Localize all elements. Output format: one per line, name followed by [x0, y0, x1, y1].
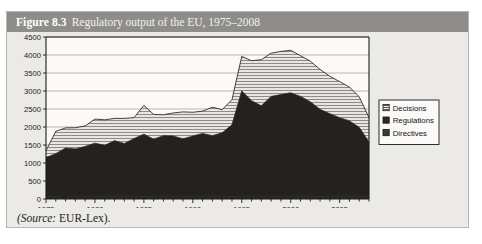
legend-label: Regulations — [393, 116, 434, 125]
x-tick-label: 2005 — [331, 205, 348, 208]
chart-legend: DecisionsRegulationsDirectives — [379, 100, 439, 145]
y-tick-label: 3000 — [24, 87, 41, 96]
figure-number: Figure 8.3 — [16, 16, 67, 28]
x-tick-label: 1975 — [38, 205, 55, 208]
figure-caption: Regulatory output of the EU, 1975–2008 — [72, 16, 260, 28]
y-tick-label: 1000 — [24, 159, 41, 168]
y-tick-label: 2500 — [24, 105, 41, 114]
y-tick-label: 4000 — [24, 51, 41, 60]
source-label: (Source: — [17, 212, 56, 224]
figure-container: Figure 8.3 Regulatory output of the EU, … — [6, 11, 469, 228]
regulatory-output-stacked-area-chart: 050010001500200025003000350040004500 197… — [7, 33, 468, 208]
y-tick-label: 4500 — [24, 33, 41, 42]
figure-title-bar: Figure 8.3 Regulatory output of the EU, … — [7, 12, 468, 32]
legend-swatch — [383, 117, 389, 123]
x-tick-label: 1990 — [184, 205, 201, 208]
x-tick-label: 1980 — [86, 205, 103, 208]
y-tick-label: 3500 — [24, 69, 41, 78]
legend-swatch — [383, 105, 389, 111]
y-tick-label: 2000 — [24, 123, 41, 132]
y-tick-label: 0 — [37, 195, 41, 204]
source-note: (Source: EUR-Lex). — [17, 212, 110, 224]
legend-swatch — [383, 130, 389, 136]
y-tick-label: 1500 — [24, 141, 41, 150]
x-tick-label: 2000 — [282, 205, 299, 208]
x-tick-label: 1985 — [135, 205, 152, 208]
x-axis-tick-labels: 1975198019851990199520002005 — [38, 205, 349, 208]
source-value: EUR-Lex). — [56, 212, 110, 224]
legend-label: Directives — [393, 129, 427, 138]
chart-area: 050010001500200025003000350040004500 197… — [7, 33, 468, 208]
y-tick-label: 500 — [28, 177, 41, 186]
x-tick-label: 1995 — [233, 205, 250, 208]
y-axis-tick-labels: 050010001500200025003000350040004500 — [24, 33, 41, 204]
legend-label: Decisions — [393, 104, 427, 113]
